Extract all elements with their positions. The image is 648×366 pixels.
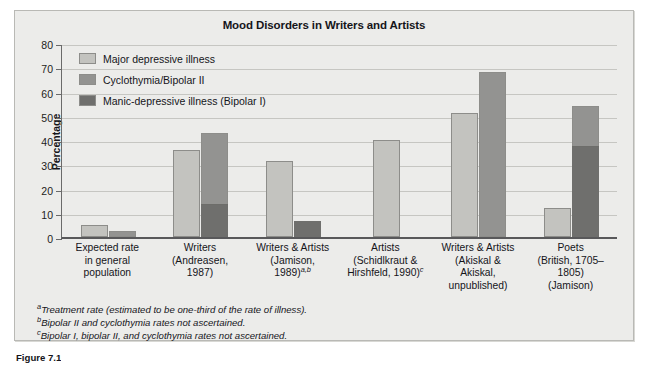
category-label-line: in general xyxy=(61,255,154,268)
category-label-line: Writers xyxy=(154,242,247,255)
y-axis-tick-label: 20 xyxy=(41,185,53,197)
y-axis-tick xyxy=(56,239,62,240)
category-label-line: Akiskal, xyxy=(432,267,525,280)
category-label-line: (Jamison) xyxy=(524,280,617,293)
bar-segment-bipolar-i xyxy=(572,146,599,237)
x-axis-category-label: Expected ratein generalpopulation xyxy=(61,242,154,280)
footnote-marker: a xyxy=(37,302,41,311)
y-axis-tick xyxy=(56,69,62,70)
bar-major-depressive-illness xyxy=(81,225,108,237)
bar-segment-bipolar-i xyxy=(294,221,321,237)
bar-group xyxy=(340,45,433,237)
x-axis-category-label: Poets(British, 1705–1805)(Jamison) xyxy=(524,242,617,292)
bar-major-depressive-illness xyxy=(451,113,478,237)
category-label-line: (Akiskal & xyxy=(432,255,525,268)
legend-swatch xyxy=(79,53,96,64)
category-superscript: a,b xyxy=(301,265,311,274)
bar-major-depressive-illness xyxy=(544,208,571,237)
category-label-line: (Jamison, xyxy=(246,255,339,268)
bar-segment-bipolar-i xyxy=(201,204,228,237)
category-label-line: Hirshfeld, 1990)c xyxy=(339,267,432,280)
figure-panel: Mood Disorders in Writers and Artists Pe… xyxy=(14,10,634,341)
category-label-line: Writers & Artists xyxy=(246,242,339,255)
category-label-line: (Schidlkraut & xyxy=(339,255,432,268)
legend-label: Major depressive illness xyxy=(103,53,215,65)
legend-label: Manic-depressive illness (Bipolar I) xyxy=(103,95,266,107)
legend-item: Cyclothymia/Bipolar II xyxy=(79,70,266,89)
category-label-line: population xyxy=(61,267,154,280)
footnotes: aTreatment rate (estimated to be one-thi… xyxy=(37,303,607,343)
x-axis-category-label: Artists(Schidlkraut &Hirshfeld, 1990)c xyxy=(339,242,432,280)
bar-stacked-bipolar xyxy=(109,231,136,237)
category-label-line: unpublished) xyxy=(432,280,525,293)
y-axis-tick-label: 70 xyxy=(41,63,53,75)
chart-legend: Major depressive illnessCyclothymia/Bipo… xyxy=(79,49,266,112)
category-label-line: (British, 1705–1805) xyxy=(524,255,617,280)
y-axis-tick-label: 30 xyxy=(41,160,53,172)
x-axis-category-label: Writers & Artists(Akiskal &Akiskal,unpub… xyxy=(432,242,525,292)
chart-title: Mood Disorders in Writers and Artists xyxy=(15,19,633,31)
footnote: cBipolar I, bipolar II, and cyclothymia … xyxy=(37,329,607,342)
footnote: bBipolar II and cyclothymia rates not as… xyxy=(37,316,607,329)
y-axis-tick xyxy=(56,45,62,46)
category-superscript: c xyxy=(420,265,424,274)
legend-label: Cyclothymia/Bipolar II xyxy=(103,74,205,86)
y-axis-tick xyxy=(56,94,62,95)
bar-major-depressive-illness xyxy=(266,161,293,237)
y-axis-tick-label: 0 xyxy=(47,233,53,245)
footnote: aTreatment rate (estimated to be one-thi… xyxy=(37,303,607,316)
y-axis-tick-label: 80 xyxy=(41,39,53,51)
y-axis-tick-label: 40 xyxy=(41,136,53,148)
y-axis-tick xyxy=(56,142,62,143)
bar-group xyxy=(433,45,526,237)
bar-stacked-bipolar xyxy=(294,222,321,237)
legend-swatch xyxy=(79,74,96,85)
bar-stacked-bipolar xyxy=(572,106,599,237)
category-label-line: 1987) xyxy=(154,267,247,280)
legend-item: Manic-depressive illness (Bipolar I) xyxy=(79,91,266,110)
category-label-line: (Andreasen, xyxy=(154,255,247,268)
legend-item: Major depressive illness xyxy=(79,49,266,68)
y-axis-tick-label: 50 xyxy=(41,112,53,124)
y-axis-tick-label: 60 xyxy=(41,88,53,100)
category-label-line: Expected rate xyxy=(61,242,154,255)
category-label-line: 1989)a,b xyxy=(246,267,339,280)
footnote-marker: b xyxy=(37,315,41,324)
category-label-line: Artists xyxy=(339,242,432,255)
y-axis-tick xyxy=(56,118,62,119)
bar-major-depressive-illness xyxy=(173,150,200,237)
bar-major-depressive-illness xyxy=(373,140,400,237)
x-axis-category-label: Writers & Artists(Jamison,1989)a,b xyxy=(246,242,339,280)
bar-group xyxy=(525,45,618,237)
y-axis-tick-label: 10 xyxy=(41,209,53,221)
footnote-marker: c xyxy=(37,328,41,337)
category-label-line: Writers & Artists xyxy=(432,242,525,255)
legend-swatch xyxy=(79,95,96,106)
y-axis-tick xyxy=(56,191,62,192)
figure-caption: Figure 7.1 xyxy=(16,352,61,366)
category-label-line: Poets xyxy=(524,242,617,255)
y-axis-tick xyxy=(56,166,62,167)
bar-stacked-bipolar xyxy=(201,133,228,237)
bar-stacked-bipolar xyxy=(479,72,506,237)
x-axis-category-label: Writers(Andreasen,1987) xyxy=(154,242,247,280)
x-axis-category-labels: Expected ratein generalpopulationWriters… xyxy=(61,242,617,300)
y-axis-tick xyxy=(56,215,62,216)
